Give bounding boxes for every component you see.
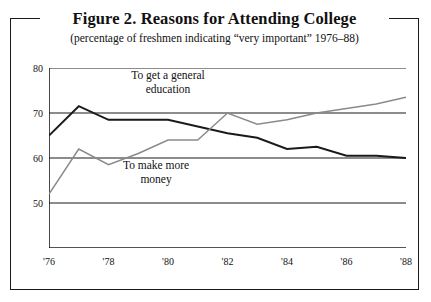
gridlines xyxy=(49,68,406,203)
line-chart-svg xyxy=(49,68,406,248)
series-line-2 xyxy=(49,97,406,194)
y-tick-label: 60 xyxy=(23,153,43,164)
frame-right-edge xyxy=(418,18,419,290)
x-tick-label: '86 xyxy=(334,256,360,267)
y-tick-label: 80 xyxy=(23,63,43,74)
series-lines xyxy=(49,97,406,194)
figure-container: Figure 2. Reasons for Attending College … xyxy=(10,18,419,290)
frame-bottom-edge xyxy=(10,289,419,290)
plot-area xyxy=(49,68,406,248)
figure-title: Figure 2. Reasons for Attending College xyxy=(10,9,419,29)
series-annotation-2: To make moremoney xyxy=(123,159,189,186)
y-tick-label: 70 xyxy=(23,108,43,119)
y-tick-label: 50 xyxy=(23,198,43,209)
annotation-line-2: education xyxy=(131,83,205,97)
annotation-line-2: money xyxy=(123,173,189,187)
series-annotation-1: To get a generaleducation xyxy=(131,69,205,96)
x-tick-label: '76 xyxy=(36,256,62,267)
frame-left-edge xyxy=(10,18,11,290)
x-tick-label: '84 xyxy=(274,256,300,267)
figure-subtitle: (percentage of freshmen indicating “very… xyxy=(10,32,419,44)
x-tick-label: '78 xyxy=(96,256,122,267)
annotation-line-1: To make more xyxy=(123,159,189,173)
annotation-line-1: To get a general xyxy=(131,69,205,83)
x-tick-label: '80 xyxy=(155,256,181,267)
x-tick-label: '88 xyxy=(393,256,419,267)
x-tick-label: '82 xyxy=(215,256,241,267)
